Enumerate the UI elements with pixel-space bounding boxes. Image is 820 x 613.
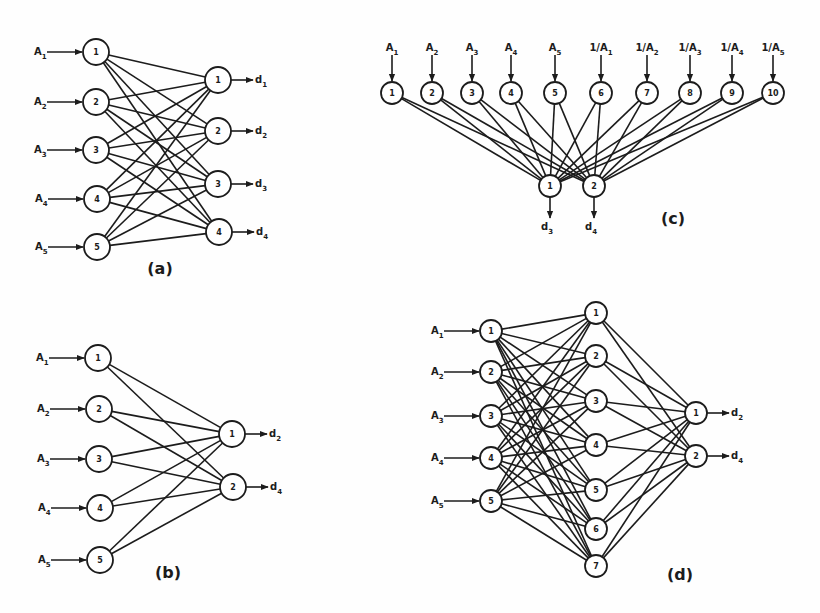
node-label: 1	[229, 430, 235, 439]
connection-edge	[560, 98, 722, 181]
connection-edge	[107, 367, 223, 478]
node-label: 4	[508, 89, 514, 98]
node-label: 1	[389, 89, 395, 98]
outputs-node: 2	[220, 474, 246, 500]
connection-edge	[111, 493, 221, 553]
output-label: d1	[255, 74, 267, 89]
hidden-node: 5	[585, 479, 607, 501]
inputs-node: 1	[381, 82, 403, 104]
connection-edge	[106, 140, 208, 238]
node-label: 2	[693, 452, 699, 461]
connection-edge	[112, 462, 221, 485]
inputs-node: 5	[480, 490, 502, 512]
node-label: 2	[215, 127, 221, 136]
input-label: 1/A5	[761, 42, 784, 57]
node-label: 3	[593, 397, 599, 406]
panel-b: A1A2A3A4A512345d2d412(b)	[36, 345, 282, 582]
inputs-node: 9	[721, 82, 743, 104]
node-label: 2	[429, 89, 435, 98]
node-label: 3	[469, 89, 475, 98]
connection-edge	[560, 97, 763, 182]
input-label: A1	[34, 46, 47, 61]
hidden-node: 4	[585, 434, 607, 456]
connection-edge	[502, 491, 585, 500]
node-label: 8	[687, 89, 693, 98]
input-label: A4	[38, 502, 51, 517]
panel-caption: (d)	[667, 565, 693, 584]
input-label: A4	[35, 193, 48, 208]
hidden-node: 3	[585, 390, 607, 412]
input-label: A5	[38, 554, 51, 569]
node-label: 2	[593, 352, 599, 361]
connection-edge	[551, 104, 555, 175]
node-label: 5	[94, 243, 100, 252]
input-label: A2	[426, 42, 439, 57]
hidden-node: 2	[585, 345, 607, 367]
output-label: d3	[255, 178, 267, 193]
node-label: 6	[598, 89, 604, 98]
hidden-node: 1	[585, 302, 607, 324]
panel-caption: (b)	[155, 563, 181, 582]
inputs-node: 3	[83, 137, 109, 163]
node-label: 3	[93, 146, 99, 155]
connection-edge	[402, 98, 584, 182]
inputs-node: 2	[83, 89, 109, 115]
node-label: 5	[488, 497, 494, 506]
input-label: A5	[431, 495, 444, 510]
diagram-canvas: A1A2A3A4A512345d1d2d3d41234(a) A1A2A3A4A…	[0, 0, 820, 613]
input-label: A1	[36, 352, 49, 367]
node-label: 3	[215, 180, 221, 189]
input-label: 1/A2	[635, 42, 658, 57]
node-label: 3	[488, 412, 494, 421]
node-label: 1	[93, 48, 99, 57]
panel-caption: (a)	[147, 259, 172, 278]
inputs-node: 1	[480, 320, 502, 342]
node-label: 5	[552, 89, 558, 98]
inputs-node: 5	[87, 547, 113, 573]
connection-edge	[441, 100, 542, 179]
input-label: A3	[37, 453, 50, 468]
input-label: A5	[35, 241, 48, 256]
outputs-node: 1	[685, 402, 707, 424]
inputs-node: 10	[762, 82, 784, 104]
input-label: A4	[431, 452, 444, 467]
input-label: 1/A4	[720, 42, 743, 57]
input-label: A2	[34, 96, 47, 111]
connection-edge	[112, 436, 219, 456]
node-label: 5	[97, 556, 103, 565]
node-label: 1	[488, 327, 494, 336]
node-label: 4	[216, 228, 222, 237]
node-label: 5	[593, 486, 599, 495]
node-label: 7	[593, 562, 599, 571]
inputs-node: 5	[84, 234, 110, 260]
output-label: d2	[731, 407, 743, 422]
node-label: 2	[96, 405, 102, 414]
outputs-node: 1	[219, 421, 245, 447]
edges	[107, 364, 223, 553]
output-label: d4	[585, 221, 597, 236]
inputs-node: 3	[461, 82, 483, 104]
connection-edge	[112, 411, 219, 431]
node-label: 7	[644, 89, 650, 98]
inputs-node: 4	[500, 82, 522, 104]
input-label: A3	[431, 410, 444, 425]
outputs-node: 2	[583, 175, 605, 197]
panel-caption: (c)	[661, 209, 685, 228]
panel-c: A1A2A3A4A51/A11/A21/A31/A41/A51234567891…	[381, 42, 785, 236]
connection-edge	[604, 321, 688, 405]
connection-edge	[109, 190, 207, 241]
outputs-node: 1	[539, 175, 561, 197]
node-label: 4	[97, 504, 103, 513]
node-label: 3	[96, 455, 102, 464]
output-label: d4	[731, 450, 743, 465]
node-label: 2	[591, 182, 597, 191]
connection-edge	[606, 361, 687, 407]
input-label: 1/A3	[678, 42, 701, 57]
connection-edge	[602, 422, 690, 557]
output-label: d4	[256, 226, 268, 241]
output-label: d4	[270, 481, 282, 496]
inputs-node: 8	[679, 82, 701, 104]
node-label: 1	[693, 409, 699, 418]
connection-edge	[109, 364, 220, 427]
outputs-node: 3	[205, 171, 231, 197]
